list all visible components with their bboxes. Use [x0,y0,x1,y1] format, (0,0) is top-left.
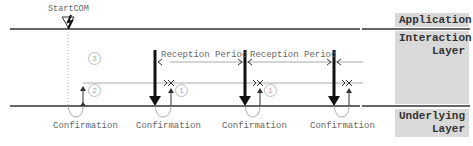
interaction-layer-text-2: Layer [399,45,465,58]
reception-period-label: Reception Period [250,50,336,60]
application-layer-text: Application [399,14,472,26]
underlying-layer-label: Underlying Layer [395,109,469,137]
underlying-layer-text-2: Layer [399,123,465,136]
confirmation-label: Confirmation [310,121,375,131]
startcom-label: StartCOM [48,4,89,14]
startcom-signal-icon [62,15,74,29]
small-up-arrow [168,88,174,106]
small-up-arrow [257,88,263,106]
confirmation-loop [68,106,83,117]
step-marker-1: 1 [175,84,188,97]
interaction-layer-label: Interaction Layer [395,31,469,104]
interaction-layer-text-1: Interaction [399,32,465,45]
reception-period-label: Reception Period [161,50,247,60]
small-up-arrow [346,88,352,106]
confirmation-label: Confirmation [136,121,201,131]
step-marker-3: 3 [88,52,101,65]
step-marker-2: 2 [88,84,101,97]
confirmation-label: Confirmation [222,121,287,131]
underlying-layer-text-1: Underlying [399,110,465,123]
confirmation-label: Confirmation [53,121,118,131]
confirmation-loop [155,106,171,117]
confirmation-loop [245,106,260,117]
small-up-arrow [80,86,86,106]
application-layer-label: Application [395,13,469,27]
big-down-arrow [149,50,161,106]
step-marker-1: 1 [264,84,277,97]
confirmation-loop [334,106,349,117]
